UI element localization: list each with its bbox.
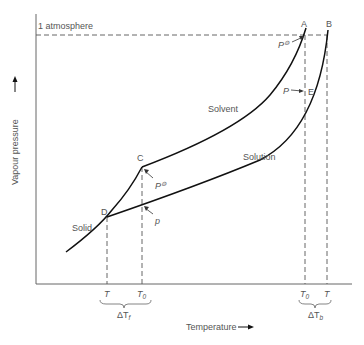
point-E-label: E — [308, 87, 314, 97]
p-standard-C-label: P⊖ — [155, 180, 167, 191]
y-axis-title: Vapour pressure — [10, 119, 20, 185]
p-standard-A-label: P⊖ — [278, 39, 290, 50]
tick-boil-T0: T0 — [300, 289, 310, 300]
point-D-label: D — [101, 207, 108, 217]
solid-label: Solid — [72, 223, 92, 233]
arrowhead-icon — [144, 169, 149, 174]
delta-Tb-label: ΔTb — [308, 310, 324, 321]
up-arrow-icon — [13, 76, 18, 82]
tick-boil-T: T — [324, 289, 331, 299]
tick-freeze-T: T — [104, 289, 111, 299]
p-lower-label: p — [154, 216, 160, 226]
p-E-label: P — [283, 86, 289, 96]
solvent-label: Solvent — [208, 104, 239, 114]
boil-brace — [299, 300, 331, 308]
tick-freeze-T0: T0 — [137, 289, 147, 300]
x-axis-title: Temperature — [186, 322, 237, 332]
point-A-label: A — [301, 19, 307, 29]
solution-label: Solution — [243, 152, 276, 162]
vapour-pressure-diagram: 1 atmosphere A B C D E Solvent Solution … — [0, 0, 364, 345]
point-C-label: C — [137, 153, 144, 163]
arrowhead-icon — [299, 89, 304, 93]
right-arrow-icon — [248, 325, 254, 330]
freeze-brace — [100, 300, 151, 308]
one-atmosphere-label: 1 atmosphere — [38, 21, 93, 31]
point-B-label: B — [326, 19, 332, 29]
delta-Tf-label: ΔTf — [117, 310, 132, 321]
